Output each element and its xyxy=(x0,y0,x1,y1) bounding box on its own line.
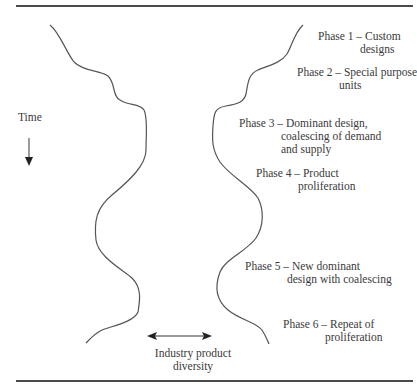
diversity-double-arrow-icon xyxy=(147,332,212,340)
phase-3-title: Phase 3 – Dominant design, xyxy=(239,117,368,129)
phase-3-label: Phase 3 – Dominant design, coalescing of… xyxy=(239,117,381,156)
phase-5-desc: design with coalescing xyxy=(245,273,392,286)
phase-1-desc: designs xyxy=(318,43,401,56)
phase-5-title: Phase 5 – New dominant xyxy=(245,260,360,272)
phase-4-label: Phase 4 – Product proliferation xyxy=(256,167,355,193)
phase-4-desc: proliferation xyxy=(256,180,355,193)
phase-6-desc: proliferation xyxy=(283,331,382,344)
phase-1-title: Phase 1 – Custom xyxy=(318,30,401,42)
diversity-label-line1: Industry product xyxy=(138,347,248,360)
phase-4-title: Phase 4 – Product xyxy=(256,167,339,179)
bottom-rule xyxy=(16,380,413,382)
phase-2-desc: units xyxy=(297,79,417,92)
phase-3-desc-line2: coalescing of demand xyxy=(239,130,381,143)
phase-1-label: Phase 1 – Custom designs xyxy=(318,30,401,56)
time-arrow-down-icon xyxy=(25,138,33,166)
phase-6-label: Phase 6 – Repeat of proliferation xyxy=(283,318,382,344)
diversity-label-line2: diversity xyxy=(138,360,248,373)
phase-6-title: Phase 6 – Repeat of xyxy=(283,318,374,330)
phase-5-label: Phase 5 – New dominant design with coale… xyxy=(245,260,392,286)
phase-3-desc-line3: and supply xyxy=(239,143,381,156)
diversity-axis-label: Industry product diversity xyxy=(138,347,248,373)
phase-2-label: Phase 2 – Special purpose units xyxy=(297,66,417,92)
time-axis-label: Time xyxy=(18,111,42,123)
left-diversity-curve xyxy=(50,25,147,343)
phase-2-title: Phase 2 – Special purpose xyxy=(297,66,417,78)
